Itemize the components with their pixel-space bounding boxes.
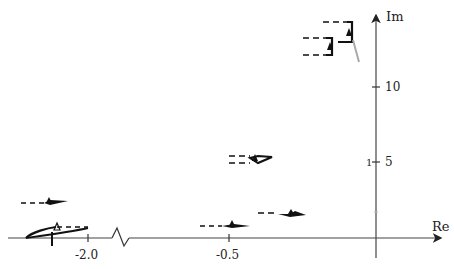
x-tick-label-minus-2: -2.0 [75, 248, 98, 262]
branch-low-center [200, 220, 250, 228]
y-small-mark: 1 [366, 157, 372, 168]
branch-low-right [258, 209, 306, 217]
im-axis-label: Im [386, 9, 403, 24]
y-tick-label-5: 5 [385, 155, 393, 169]
re-axis-label: Re [432, 219, 450, 234]
branch-far-left-upper [21, 197, 68, 205]
root-locus-diagram: Re Im -2.0 -0.5 10 5 1 [0, 0, 454, 269]
axis-break-icon [112, 228, 129, 246]
imaginary-axis [372, 16, 380, 258]
branch-mid [229, 154, 272, 163]
branch-far-left-lower [26, 223, 88, 246]
x-tick-label-minus-0-5: -0.5 [216, 248, 239, 262]
y-tick-label-10: 10 [385, 80, 400, 94]
branch-top-left [303, 38, 333, 55]
